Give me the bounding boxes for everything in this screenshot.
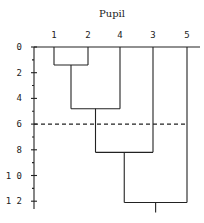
tree-links (34, 47, 200, 212)
leaf-label: 2 (85, 30, 90, 40)
leaf-label: 4 (117, 30, 122, 40)
y-tick-label: 1 2 (6, 196, 22, 206)
y-tick-label: 1 0 (6, 171, 22, 181)
leaf-label: 5 (184, 30, 189, 40)
leaf-label: 1 (51, 30, 56, 40)
chart-title: Pupil (99, 8, 125, 19)
y-tick-label: 4 (17, 93, 22, 103)
dendrogram: Pupil 12435 024681 01 2 (0, 0, 204, 223)
leaf-label: 3 (150, 30, 155, 40)
y-tick-label: 2 (17, 68, 22, 78)
leaf-labels: 12435 (51, 30, 189, 40)
y-axis: 024681 01 2 (6, 42, 37, 209)
y-tick-label: 8 (17, 145, 22, 155)
y-tick-label: 6 (17, 119, 22, 129)
y-tick-label: 0 (17, 42, 22, 52)
